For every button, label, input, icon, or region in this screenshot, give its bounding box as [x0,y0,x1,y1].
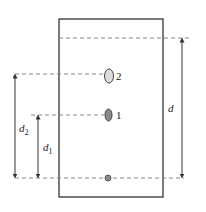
tlc-diagram: 2 1 d d2 d1 [0,0,206,212]
tlc-plate [59,19,163,197]
spot-1-label: 1 [116,109,122,121]
spot-2 [105,69,114,83]
spot-1 [105,109,112,121]
spot-2-label: 2 [116,70,122,82]
distance-d1-label: d1 [43,141,53,156]
distance-d-label: d [168,102,174,114]
distance-d2-label: d2 [19,122,29,137]
origin-spot [105,175,111,181]
